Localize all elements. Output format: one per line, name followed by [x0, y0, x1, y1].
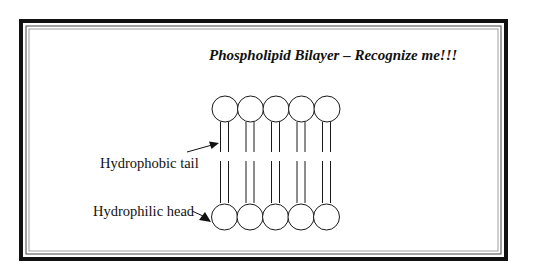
diagram-title: Phospholipid Bilayer – Recognize me!!!	[209, 47, 457, 64]
hydrophilic-head-label: Hydrophilic head	[93, 203, 194, 220]
head-icon	[238, 96, 264, 122]
head-icon	[263, 96, 289, 122]
bilayer-figure	[0, 0, 553, 280]
head-icon	[212, 204, 238, 230]
head-icon	[263, 204, 289, 230]
top-heads	[212, 96, 340, 122]
head-icon	[288, 204, 314, 230]
head-icon	[212, 96, 238, 122]
bottom-tails	[221, 161, 331, 203]
diagram-canvas: Phospholipid Bilayer – Recognize me!!! H…	[0, 0, 553, 280]
head-icon	[289, 96, 315, 122]
tail-arrow-icon	[187, 142, 219, 153]
head-icon	[314, 204, 340, 230]
head-icon	[237, 204, 263, 230]
head-arrow-icon	[192, 211, 211, 222]
bottom-heads	[212, 204, 340, 230]
hydrophobic-tail-label: Hydrophobic tail	[100, 155, 199, 172]
head-icon	[314, 96, 340, 122]
top-tails	[221, 122, 331, 152]
